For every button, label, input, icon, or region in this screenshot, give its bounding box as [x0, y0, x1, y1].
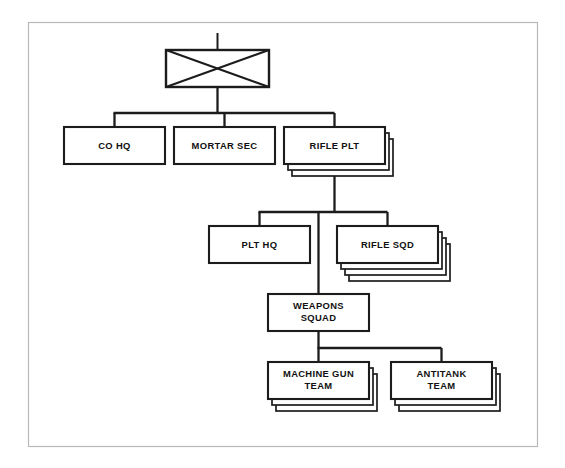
- unit-mortar-sec[interactable]: MORTAR SEC: [174, 127, 275, 164]
- unit-label-line1: MACHINE GUN: [283, 368, 354, 379]
- org-chart-canvas: CO HQ MORTAR SEC RIFLE PLT: [0, 0, 565, 468]
- unit-weapons-squad[interactable]: WEAPONS SQUAD: [268, 294, 369, 331]
- unit-label: PLT HQ: [242, 239, 278, 250]
- unit-label-line2: TEAM: [305, 380, 333, 391]
- unit-label: RIFLE SQD: [361, 239, 414, 250]
- unit-plt-hq[interactable]: PLT HQ: [209, 226, 310, 263]
- unit-label-line1: WEAPONS: [293, 300, 344, 311]
- unit-label-line2: SQUAD: [301, 312, 337, 323]
- unit-rifle-plt[interactable]: RIFLE PLT: [284, 127, 393, 176]
- unit-antitank-team[interactable]: ANTITANK TEAM: [391, 362, 500, 411]
- unit-label-line2: TEAM: [428, 380, 456, 391]
- unit-label: CO HQ: [98, 140, 130, 151]
- unit-label-line1: ANTITANK: [416, 368, 466, 379]
- unit-machine-gun-team[interactable]: MACHINE GUN TEAM: [268, 362, 377, 411]
- unit-rifle-sqd[interactable]: RIFLE SQD: [337, 226, 450, 281]
- unit-label: RIFLE PLT: [310, 140, 360, 151]
- unit-co-hq[interactable]: CO HQ: [64, 127, 165, 164]
- tier3-group: WEAPONS SQUAD: [268, 294, 369, 331]
- org-chart-diagram: CO HQ MORTAR SEC RIFLE PLT: [0, 0, 565, 468]
- unit-label: MORTAR SEC: [192, 140, 258, 151]
